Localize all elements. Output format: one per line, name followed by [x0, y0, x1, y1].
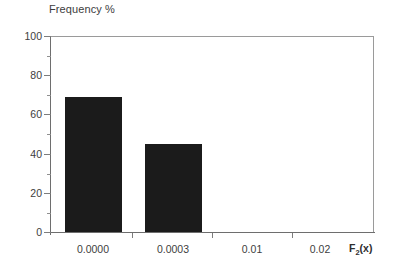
- x-axis-label-1: 0.0003: [157, 243, 189, 255]
- bar-1: [145, 144, 202, 232]
- x-axis-label-3: 0.02: [310, 243, 330, 255]
- x-axis-label-0: 0.0000: [77, 243, 109, 255]
- x-axis-title: F2(x): [349, 242, 372, 257]
- x-axis-title-tail: (x): [360, 242, 373, 254]
- x-tick-0: [132, 233, 133, 238]
- x-axis-label-2: 0.01: [242, 243, 262, 255]
- x-tick-1: [212, 233, 213, 238]
- bar-0: [65, 97, 122, 232]
- bars-layer: [0, 0, 401, 269]
- frequency-histogram: Frequency % 100 80 60 40 20 0 0.0000 0.0…: [0, 0, 401, 269]
- x-tick-2: [292, 233, 293, 238]
